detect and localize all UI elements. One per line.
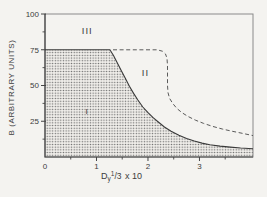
y-tick-label: 50 — [30, 81, 39, 90]
x-title-multiplier: x 10 — [122, 171, 142, 181]
y-tick-label: 100 — [26, 10, 40, 19]
x-tick-label: 0 — [43, 162, 48, 171]
x-tick-label: 1 — [94, 162, 99, 171]
figure-container: 0123255075100IIIIII B (ARBITRARY UNITS) … — [0, 0, 267, 197]
y-tick-label: 25 — [30, 117, 39, 126]
x-axis-title: Dy1/3 x 10 — [101, 171, 142, 181]
x-tick-label: 3 — [197, 162, 202, 171]
x-title-base: D — [101, 171, 108, 181]
y-tick-label: 75 — [30, 46, 39, 55]
x-tick-label: 2 — [146, 162, 151, 171]
region-label-II: II — [142, 67, 149, 78]
x-title-exponent-numerator: 1 — [111, 170, 115, 177]
chart-canvas: 0123255075100IIIIII — [0, 0, 267, 197]
region-label-I: I — [86, 107, 89, 116]
x-title-exponent-denominator: 3 — [117, 171, 122, 181]
y-axis-title: B (ARBITRARY UNITS) — [7, 8, 16, 168]
region-label-III: III — [82, 25, 93, 36]
